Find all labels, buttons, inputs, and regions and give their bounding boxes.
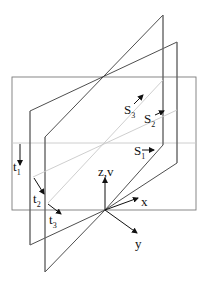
planes-diagram: S3 S2 S1 t1 t2 t3 z,v x y — [0, 0, 208, 287]
label-s2: S2 — [144, 111, 155, 129]
label-x-axis: x — [141, 194, 148, 209]
label-t1: t1 — [13, 159, 21, 177]
label-t2: t2 — [33, 191, 41, 209]
label-z-axis: z,v — [98, 164, 114, 179]
label-s3: S3 — [124, 102, 135, 120]
y-axis — [105, 210, 137, 233]
label-y-axis: y — [135, 236, 142, 251]
label-t3: t3 — [49, 212, 57, 230]
label-s1: S1 — [134, 143, 145, 161]
